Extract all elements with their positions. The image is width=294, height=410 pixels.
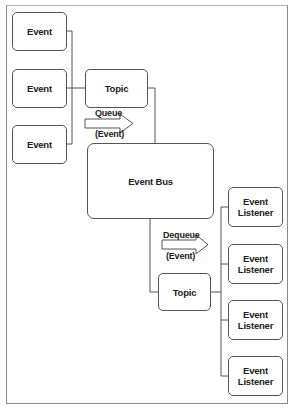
event-producer-1: Event bbox=[12, 12, 67, 51]
event-producer-2: Event bbox=[12, 69, 67, 108]
topic-in: Topic bbox=[85, 69, 148, 108]
event-bus: Event Bus bbox=[87, 143, 214, 219]
event-listener-2: Event Listener bbox=[228, 244, 283, 284]
event-listener-1: Event Listener bbox=[228, 187, 283, 227]
dequeue-label: Dequeue bbox=[163, 230, 200, 240]
event-producer-3: Event bbox=[12, 125, 67, 164]
dequeue-event-label: (Event) bbox=[166, 251, 195, 261]
queue-event-label: (Event) bbox=[95, 129, 124, 139]
event-listener-3: Event Listener bbox=[228, 300, 283, 340]
event-listener-4: Event Listener bbox=[228, 356, 283, 396]
topic-out: Topic bbox=[158, 273, 211, 311]
queue-label: Queue bbox=[95, 108, 122, 118]
